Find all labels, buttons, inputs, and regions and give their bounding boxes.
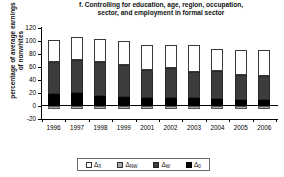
y-axis-line <box>41 27 42 120</box>
bar-segment-2001-delta-X <box>141 45 153 70</box>
bar-segment-1998-delta-X <box>94 39 106 62</box>
x-tick-mark <box>229 119 230 122</box>
bar-segment-2002-delta-W <box>165 68 177 98</box>
bar-segment-2003-delta-W <box>188 72 200 99</box>
bar-segment-1997-delta-X <box>71 37 83 60</box>
bar-segment-2006-delta-NW <box>258 106 270 109</box>
bar-segment-1998-delta-NW <box>94 106 106 109</box>
legend-item-delta-w[interactable]: ΔW <box>153 161 170 169</box>
legend-label-delta-w: ΔW <box>161 161 170 169</box>
legend-label-delta-x: ΔX <box>94 161 101 169</box>
y-tick-mark <box>38 106 41 107</box>
x-tick-mark <box>253 119 254 122</box>
bar-segment-2002-delta-NW <box>165 106 177 109</box>
bar-segment-1997-delta-W <box>71 60 83 93</box>
legend-label-delta-nw: ΔNW <box>125 161 137 169</box>
bar-segment-2001-delta-NW <box>141 106 153 109</box>
bar-segment-2004-delta-NW <box>211 106 223 109</box>
legend-item-delta-nw[interactable]: ΔNW <box>117 161 137 169</box>
bar-segment-2001-delta-0 <box>141 98 153 106</box>
x-tick-label-2006: 2006 <box>251 124 277 131</box>
legend-item-delta-x[interactable]: ΔX <box>86 161 101 169</box>
bar-segment-1997-delta-0 <box>71 93 83 105</box>
x-tick-mark <box>276 119 277 122</box>
x-tick-label-1997: 1997 <box>64 124 90 131</box>
bar-segment-2003-delta-0 <box>188 98 200 105</box>
bar-segment-2002-delta-0 <box>165 98 177 105</box>
x-tick-mark <box>112 119 113 122</box>
x-tick-mark <box>206 119 207 122</box>
bar-segment-1996-delta-W <box>48 62 60 94</box>
bar-segment-2004-delta-X <box>211 49 223 71</box>
bar-segment-1996-delta-NW <box>48 106 60 109</box>
bar-segment-2006-delta-W <box>258 76 270 100</box>
x-tick-mark <box>182 119 183 122</box>
y-tick-label: 80 <box>10 50 36 57</box>
x-tick-label-2001: 2001 <box>134 124 160 131</box>
y-tick-mark <box>38 54 41 55</box>
chart-title: f. Controlling for education, age, regio… <box>42 1 280 18</box>
x-tick-mark <box>65 119 66 122</box>
y-tick-label: 40 <box>10 76 36 83</box>
y-tick-mark <box>38 28 41 29</box>
x-tick-label-1999: 1999 <box>111 124 137 131</box>
bar-segment-1996-delta-0 <box>48 94 60 106</box>
legend-swatch-icon-delta-nw <box>117 162 123 168</box>
x-tick-mark <box>136 119 137 122</box>
bar-segment-2005-delta-X <box>235 50 247 75</box>
legend-item-delta-0[interactable]: Δ0 <box>186 161 201 169</box>
legend-swatch-icon-delta-0 <box>186 162 192 168</box>
chart-title-line-2: sector, and employment in formal sector <box>42 9 280 17</box>
x-tick-label-1996: 1996 <box>41 124 67 131</box>
x-tick-label-2003: 2003 <box>181 124 207 131</box>
bar-segment-1997-delta-NW <box>71 106 83 109</box>
bar-segment-2004-delta-W <box>211 71 223 99</box>
y-tick-mark <box>38 119 41 120</box>
x-tick-mark <box>89 119 90 122</box>
y-tick-mark <box>38 80 41 81</box>
x-tick-label-2004: 2004 <box>204 124 230 131</box>
bar-segment-1996-delta-X <box>48 40 60 62</box>
y-tick-mark <box>38 41 41 42</box>
bar-segment-2005-delta-NW <box>235 106 247 109</box>
y-tick-label: 60 <box>10 63 36 70</box>
bar-segment-1998-delta-0 <box>94 96 106 106</box>
y-tick-mark <box>38 67 41 68</box>
bar-segment-2001-delta-W <box>141 70 153 98</box>
bar-segment-1999-delta-W <box>118 65 130 98</box>
y-tick-mark <box>38 93 41 94</box>
bar-segment-2006-delta-X <box>258 50 270 76</box>
bar-segment-2003-delta-X <box>188 45 200 72</box>
bar-segment-2003-delta-NW <box>188 106 200 109</box>
bar-segment-2005-delta-W <box>235 75 247 100</box>
bar-segment-1999-delta-X <box>118 41 130 64</box>
x-tick-label-2005: 2005 <box>228 124 254 131</box>
x-tick-label-2002: 2002 <box>158 124 184 131</box>
bar-segment-1999-delta-0 <box>118 97 130 105</box>
y-tick-label: 0 <box>10 102 36 109</box>
legend-swatch-icon-delta-w <box>153 162 159 168</box>
bar-segment-2002-delta-X <box>165 45 177 68</box>
chart-figure: f. Controlling for education, age, regio… <box>0 0 284 177</box>
x-tick-label-1998: 1998 <box>87 124 113 131</box>
legend-label-delta-0: Δ0 <box>194 161 201 169</box>
chart-title-line-1: f. Controlling for education, age, regio… <box>42 1 280 9</box>
x-tick-mark <box>42 119 43 122</box>
chart-legend: ΔXΔNWΔWΔ0 <box>77 158 210 171</box>
x-tick-mark <box>159 119 160 122</box>
y-tick-label: 120 <box>10 24 36 31</box>
y-tick-label: 100 <box>10 37 36 44</box>
bar-segment-1998-delta-W <box>94 62 106 96</box>
y-tick-label: 20 <box>10 89 36 96</box>
legend-swatch-icon-delta-x <box>86 162 92 168</box>
y-tick-label: -20 <box>10 115 36 122</box>
bar-segment-1999-delta-NW <box>118 106 130 109</box>
